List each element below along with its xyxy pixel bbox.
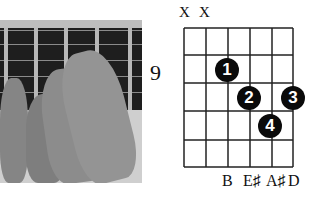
photo-fret <box>128 28 132 110</box>
finger-index <box>0 78 28 183</box>
hand-fretting-photo <box>0 20 142 183</box>
photo-string <box>0 30 142 31</box>
finger-dot-2: 2 <box>237 86 261 110</box>
note-label: D <box>288 172 300 190</box>
finger-dot-3: 3 <box>281 86 305 110</box>
finger-dot-4: 4 <box>258 114 282 138</box>
note-label: B <box>222 172 233 190</box>
muted-string-marker: X <box>199 4 210 21</box>
muted-string-marker: X <box>179 4 190 21</box>
fretboard-edge <box>0 20 142 28</box>
note-label: A♯ <box>266 172 286 190</box>
finger-dot-1: 1 <box>215 58 239 82</box>
photo-string <box>0 44 142 45</box>
start-fret-number: 9 <box>150 60 161 86</box>
note-label: E♯ <box>243 172 261 190</box>
